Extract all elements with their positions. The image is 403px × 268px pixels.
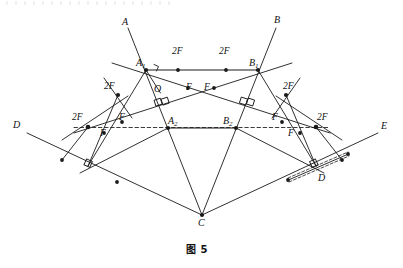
label-point-a1: A1 [136, 58, 146, 70]
label-point-b2-sub: 2 [229, 120, 233, 128]
segment-b2-to-right-arm [236, 128, 324, 173]
node-top-mid-left [176, 68, 180, 72]
segment-right2f-to-arm [316, 127, 342, 160]
node-upper-left-2f [116, 93, 120, 97]
label-2f-outer-right: 2F [317, 113, 328, 123]
node-right-2f [314, 125, 319, 130]
node-top-mid-right [224, 68, 228, 72]
segment-a1-to-lower-left [88, 70, 146, 166]
short-ray-right-cross [276, 96, 342, 140]
node-b2 [234, 126, 238, 130]
right-angle-tick-b1 [264, 65, 269, 72]
ray-e-arm [202, 133, 378, 215]
node-sliver-end [346, 152, 350, 156]
label-point-a2: A2 [168, 116, 178, 128]
node-left-arm-lower [115, 180, 119, 184]
label-2f-upper-right: 2F [283, 82, 294, 92]
label-f-lower-right-upper: F [272, 113, 278, 123]
label-f-mid-right: F [204, 83, 210, 93]
ray-d-arm [27, 133, 202, 215]
label-2f-top-right: 2F [219, 47, 230, 57]
label-ray-d-left: D [13, 120, 20, 130]
figure-caption: 图 5 [186, 241, 208, 256]
ray-b [202, 28, 276, 215]
label-ray-a: A [122, 17, 128, 27]
label-f-mid-left: F [186, 83, 192, 93]
label-point-d-inner: D [318, 173, 325, 183]
node-upper-right-2f [284, 93, 288, 97]
label-f-lower-left-lower: F [100, 129, 106, 139]
label-f-lower-left-upper: F [119, 113, 125, 123]
label-2f-upper-left: 2F [104, 82, 115, 92]
node-right-arm-upper [340, 158, 344, 162]
label-f-lower-right-lower: F [288, 129, 294, 139]
label-ray-b: B [274, 15, 280, 25]
node-right-arm-lower [286, 178, 290, 182]
right-angle-marker-b-side-right [247, 98, 255, 106]
figure-canvas: A B D E D A1 B1 A2 B2 O C 2F 2F F F 2F 2… [0, 0, 403, 268]
label-2f-top-left: 2F [172, 47, 183, 57]
label-2f-outer-left: 2F [72, 113, 83, 123]
node-mid-f-right [212, 86, 216, 90]
label-point-o: O [154, 84, 161, 94]
label-point-a1-sub: 1 [142, 62, 146, 70]
label-point-a2-sub: 2 [174, 120, 178, 128]
node-left-2f [86, 125, 91, 130]
segment-a2-to-left-arm [80, 128, 168, 173]
node-right-f-lower [298, 131, 302, 135]
label-point-b1-sub: 1 [255, 62, 259, 70]
label-point-b2: B2 [223, 116, 233, 128]
label-point-c: C [198, 218, 205, 228]
label-point-b1: B1 [249, 58, 259, 70]
label-ray-e-right: E [381, 121, 387, 131]
node-dash-right-f [280, 120, 284, 124]
node-left-arm-upper [60, 158, 64, 162]
